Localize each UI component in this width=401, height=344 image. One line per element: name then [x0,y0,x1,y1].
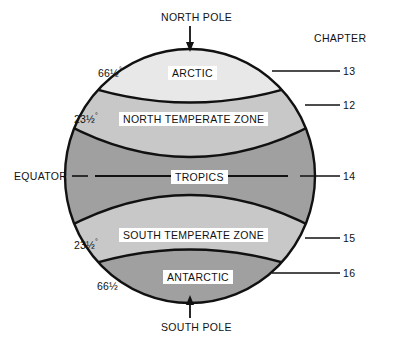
latitude-label-tropic-of-cancer: 23½° [74,112,98,124]
latitude-value: 66½ [98,67,119,79]
latitude-value: 23½ [74,113,95,125]
latitude-label-arctic-circle: 66½° [98,66,122,78]
latitude-label-antarctic-circle: 66½° [97,279,121,291]
latitude-label-tropic-of-capricorn: 23½° [74,238,98,250]
latitude-value: 23½ [74,239,95,251]
south-pole-label: SOUTH POLE [161,322,232,333]
chapter-number-south-temperate-zone: 15 [343,233,355,244]
chapter-number-arctic: 13 [343,66,355,77]
zone-label-tropics: TROPICS [171,170,228,184]
north-pole-label: NORTH POLE [161,12,232,23]
zone-label-south-temperate-zone: SOUTH TEMPERATE ZONE [119,228,268,242]
chapter-number-antarctic: 16 [343,268,355,279]
equator-label: EQUATOR [14,171,67,182]
degree-symbol: ° [118,279,121,286]
chapter-number-tropics: 14 [343,171,355,182]
chapter-number-north-temperate-zone: 12 [343,100,355,111]
degree-symbol: ° [119,66,122,73]
degree-symbol: ° [95,238,98,245]
latitude-value: 66½ [97,280,118,292]
zone-label-north-temperate-zone: NORTH TEMPERATE ZONE [119,112,268,126]
chapter-heading: CHAPTER [314,33,366,44]
degree-symbol: ° [95,112,98,119]
zone-label-arctic: ARCTIC [168,66,217,80]
zone-label-antarctic: ANTARCTIC [163,270,233,284]
